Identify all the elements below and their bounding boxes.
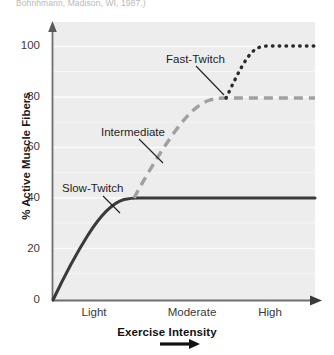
y-tick-20: 20 [10,243,40,255]
x-tick-light: Light [63,307,125,319]
annotation-intermediate: Intermediate [101,127,165,139]
y-tick-0: 0 [10,294,40,306]
x-axis-arrowhead [310,296,322,306]
y-axis-label: % Active Muscle Fibers [20,86,32,226]
x-tick-high: High [243,307,297,319]
annotation-fast-twitch: Fast-Twitch [166,54,225,66]
exercise-intensity-arrow [160,339,200,349]
figure-container: Bohnhmann, Madison, WI, 1987.) [0,0,334,355]
y-tick-100: 100 [10,40,40,52]
annotation-slow-twitch: Slow-Twitch [62,183,123,195]
x-axis-label: Exercise Intensity [0,326,334,338]
x-tick-moderate: Moderate [157,307,227,319]
